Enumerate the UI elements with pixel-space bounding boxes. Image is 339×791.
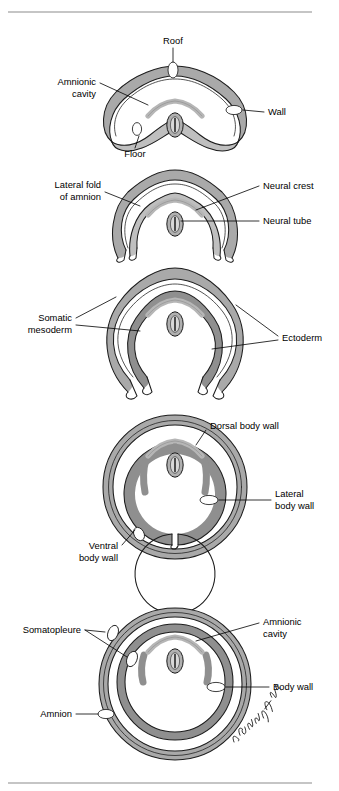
svg-text:Lateral: Lateral (275, 488, 304, 499)
label-amnionic-cavity-2: Amnionic cavity (263, 616, 302, 639)
panel2-neural-core (148, 200, 202, 236)
panel3-neural-core (148, 300, 202, 336)
svg-text:cavity: cavity (72, 88, 96, 99)
panel1-wall-marker (226, 105, 242, 114)
figure-root: Roof Amnionic cavity Wall Floor (0, 0, 339, 791)
label-amnion: Amnion (40, 708, 72, 719)
leader-wall (243, 110, 264, 112)
label-floor: Floor (124, 148, 145, 159)
panel4-left-dorsal-thickening (144, 459, 146, 492)
label-wall: Wall (268, 106, 286, 117)
panel5-body-wall-marker (207, 682, 225, 691)
svg-text:mesoderm: mesoderm (28, 324, 72, 335)
label-lateral-fold-of-amnion: Lateral fold of amnion (55, 179, 101, 202)
panel5-left-dorsal-thickening (142, 655, 144, 682)
panel1-roof-marker (168, 62, 178, 78)
svg-text:Amnionic: Amnionic (57, 76, 96, 87)
panel5-right-dorsal-thickening (206, 655, 208, 682)
label-somatopleure: Somatopleure (23, 624, 81, 635)
label-amnionic-cavity: Amnionic cavity (57, 76, 96, 99)
label-somatic-mesoderm: Somatic mesoderm (28, 312, 73, 335)
panel-1-stage-flat-amnion: Roof Amnionic cavity Wall Floor (57, 35, 285, 159)
label-body-wall: Body wall (273, 681, 313, 692)
panel1-floor-marker (132, 123, 141, 136)
label-ventral-body-wall: Ventral body wall (79, 540, 118, 563)
label-dorsal-body-wall: Dorsal body wall (210, 420, 279, 431)
svg-text:Amnionic: Amnionic (263, 616, 302, 627)
panel4-lateral-body-wall-marker (200, 495, 218, 504)
svg-text:cavity: cavity (263, 628, 287, 639)
label-ectoderm: Ectoderm (282, 332, 322, 343)
svg-text:of amnion: of amnion (60, 191, 101, 202)
embryology-diagram: Roof Amnionic cavity Wall Floor (0, 0, 339, 791)
leader-somatic-mesoderm-a (76, 297, 116, 318)
panel-2-stage-lateral-folds: Lateral fold of amnion Neural crest Neur… (55, 170, 314, 262)
panel3-bodywall-band (128, 291, 223, 388)
panel-5-stage-closed: Somatopleure Amnionic cavity Body wall A… (23, 608, 314, 760)
svg-text:Somatic: Somatic (38, 312, 72, 323)
panel5-amnion-marker (98, 709, 114, 718)
panel-3-stage-c-shaped: Somatic mesoderm Ectoderm (28, 268, 323, 399)
label-neural-tube: Neural tube (263, 215, 311, 226)
label-neural-crest: Neural crest (263, 180, 314, 191)
label-roof: Roof (163, 35, 183, 46)
svg-text:Lateral fold: Lateral fold (55, 179, 101, 190)
svg-text:Ventral: Ventral (89, 540, 118, 551)
panel4-right-dorsal-thickening (204, 459, 206, 492)
label-lateral-body-wall: Lateral body wall (275, 488, 314, 511)
svg-text:body wall: body wall (275, 500, 314, 511)
panel-4-stage-closing: Dorsal body wall Lateral body wall Ventr… (79, 415, 314, 614)
svg-text:body wall: body wall (79, 552, 118, 563)
